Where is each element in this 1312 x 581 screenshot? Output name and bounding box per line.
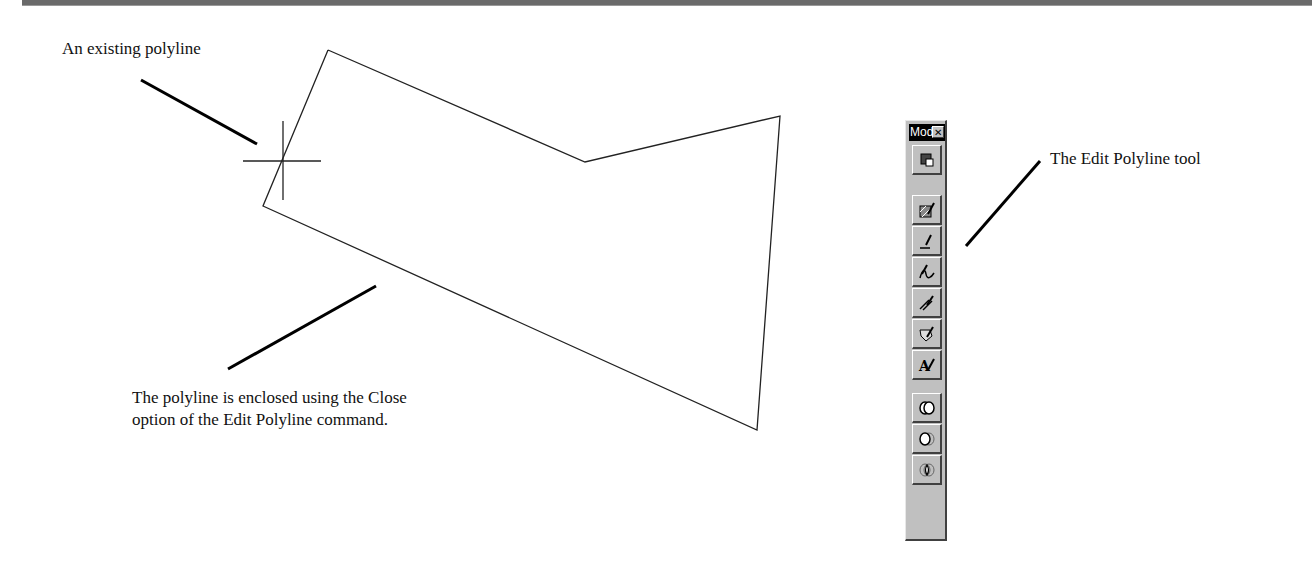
toolbar-title-bar[interactable]: Mod ✕ [909, 124, 945, 141]
label-enclosed-line2: option of the Edit Polyline command. [132, 409, 388, 431]
toolbar-title: Mod [910, 125, 933, 139]
edit-attribute-icon [917, 324, 937, 344]
label-enclosed-line1: The polyline is enclosed using the Close [132, 387, 407, 409]
edit-spline-button[interactable] [912, 257, 942, 287]
label-existing-polyline: An existing polyline [62, 38, 201, 60]
edit-multiline-icon [917, 293, 937, 313]
edit-hatch-button[interactable] [912, 195, 942, 225]
subtract-icon [917, 429, 937, 449]
edit-text-button[interactable]: A [912, 350, 942, 380]
leader-existing-polyline [141, 80, 257, 144]
edit-text-icon: A [917, 355, 937, 375]
toolbar-close-button[interactable]: ✕ [932, 126, 944, 138]
drawing-canvas [0, 0, 1312, 581]
edit-polyline-icon [917, 231, 937, 251]
intersect-button[interactable] [912, 455, 942, 485]
crosshair-cursor [243, 121, 321, 200]
union-button[interactable] [912, 393, 942, 423]
edit-attribute-button[interactable] [912, 319, 942, 349]
intersect-icon [917, 460, 937, 480]
label-edit-polyline-tool: The Edit Polyline tool [1050, 148, 1201, 170]
properties-button[interactable] [912, 145, 942, 175]
union-icon [917, 398, 937, 418]
subtract-button[interactable] [912, 424, 942, 454]
polyline-shape[interactable] [263, 50, 780, 430]
edit-spline-icon [917, 262, 937, 282]
modify-ii-toolbar[interactable]: Mod ✕ [905, 120, 947, 541]
leader-enclosed [228, 286, 376, 369]
edit-polyline-button[interactable] [912, 226, 942, 256]
edit-hatch-icon [917, 200, 937, 220]
properties-icon [917, 150, 937, 170]
leader-edit-polyline-tool [966, 161, 1040, 246]
edit-multiline-button[interactable] [912, 288, 942, 318]
